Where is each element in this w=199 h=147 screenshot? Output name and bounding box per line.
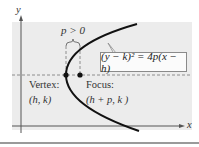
vertex-coords: (h, k) (29, 95, 51, 106)
x-axis-label: x (187, 120, 192, 131)
shaded-region (12, 22, 192, 130)
bottom-rule (0, 142, 199, 144)
p-label: p > 0 (61, 25, 85, 36)
y-axis-label: y (16, 5, 21, 16)
y-axis-arrow-icon (19, 15, 23, 21)
vertex-label: Vertex: (29, 80, 59, 91)
focus-coords: (h + p, k ) (86, 95, 128, 106)
vertex-point (63, 72, 68, 77)
equation-box: (y − k)² = 4p(x − h) (100, 52, 187, 72)
equation-text: (y − k)² = 4p(x − h) (101, 50, 186, 74)
parabola-diagram: y x p > 0 (y − k)² = 4p(x − h) Vertex: (… (0, 0, 199, 147)
focus-label: Focus: (86, 80, 114, 91)
focus-point (77, 72, 82, 77)
